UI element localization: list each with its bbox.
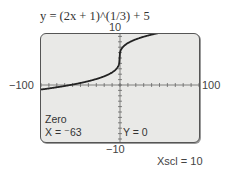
graph-screen: Zero X = ⁻63 Y = 0 bbox=[40, 33, 200, 143]
xscl-label: Xscl = 10 bbox=[157, 155, 203, 167]
x-max-label: 100 bbox=[202, 79, 220, 91]
y-max-label: 10 bbox=[109, 21, 121, 33]
function-curve bbox=[41, 34, 185, 90]
trace-x-value: X = ⁻63 bbox=[45, 126, 82, 138]
trace-mode-label: Zero bbox=[45, 113, 67, 125]
equation-title: y = (2x + 1)^(1/3) + 5 bbox=[40, 9, 150, 24]
trace-y-value: Y = 0 bbox=[123, 126, 148, 138]
y-min-label: −10 bbox=[106, 143, 125, 155]
x-min-label: −100 bbox=[9, 79, 34, 91]
